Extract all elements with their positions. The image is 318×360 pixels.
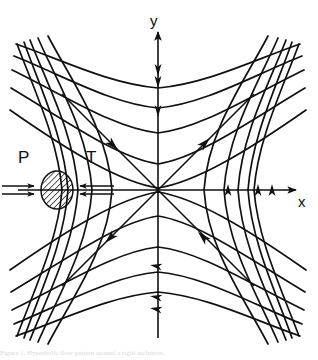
- y-axis-label: y: [150, 12, 158, 29]
- compression-label-p: P: [18, 148, 29, 168]
- tension-label-t: T: [86, 148, 96, 168]
- flow-arrowheads-y-lower: [150, 262, 163, 314]
- x-axis-label: x: [298, 193, 306, 210]
- figure-caption: Figure 1. Hyperbolic flow pattern around…: [0, 349, 318, 360]
- hatched-ellipse: [41, 171, 73, 209]
- saddle-flow-diagram: [0, 0, 318, 360]
